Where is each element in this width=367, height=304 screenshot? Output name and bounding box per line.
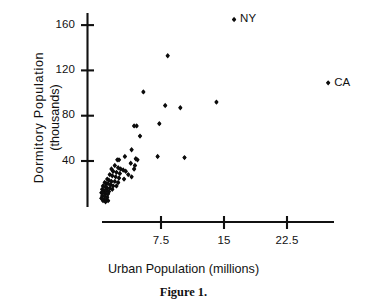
data-point-core <box>114 175 117 178</box>
data-point-core <box>111 188 114 191</box>
data-point-core <box>113 164 116 167</box>
data-point-core <box>136 158 139 161</box>
y-axis-title-line1: Dormitory Population <box>32 25 48 211</box>
data-point-core <box>327 81 330 84</box>
data-point-core <box>113 180 116 183</box>
data-point-core <box>115 171 118 174</box>
y-axis-title-line2: (thousands) <box>47 25 63 211</box>
data-point-core <box>111 174 114 177</box>
axes-group <box>88 13 335 222</box>
y-axis-title: Dormitory Population (thousands) <box>32 25 63 211</box>
data-point-core <box>133 167 136 170</box>
data-points-group <box>99 17 330 205</box>
data-point-core <box>142 90 145 93</box>
data-point-core <box>122 178 125 181</box>
data-point-core <box>130 175 133 178</box>
data-point-core <box>112 170 115 173</box>
data-point-core <box>107 199 110 202</box>
data-point-core <box>158 122 161 125</box>
data-point-core <box>138 135 141 138</box>
data-point-core <box>117 176 120 179</box>
data-point-core <box>115 184 118 187</box>
figure-caption: Figure 1. <box>0 285 367 300</box>
data-point-core <box>129 162 132 165</box>
data-point-core <box>124 170 127 173</box>
data-point-core <box>164 104 167 107</box>
data-point-core <box>215 101 218 104</box>
point-label-ny: NY <box>240 12 256 24</box>
x-axis-title: Urban Population (millions) <box>0 262 367 276</box>
x-tick-label: 22.5 <box>262 234 312 246</box>
data-point-core <box>116 158 119 161</box>
data-point-core <box>179 106 182 109</box>
data-point-core <box>117 181 120 184</box>
figure-container: 4080120160 7.51522.5 NYCA Dormitory Popu… <box>0 0 367 304</box>
data-point-core <box>166 54 169 57</box>
data-point-core <box>127 173 130 176</box>
data-point-core <box>118 172 121 175</box>
x-tick-label: 7.5 <box>136 234 186 246</box>
data-point-core <box>233 18 236 21</box>
point-label-ca: CA <box>334 76 350 88</box>
data-point-core <box>156 155 159 158</box>
data-point-core <box>133 124 136 127</box>
x-tick-label: 15 <box>199 234 249 246</box>
data-point-core <box>183 156 186 159</box>
data-point-core <box>130 148 133 151</box>
data-point-core <box>123 155 126 158</box>
